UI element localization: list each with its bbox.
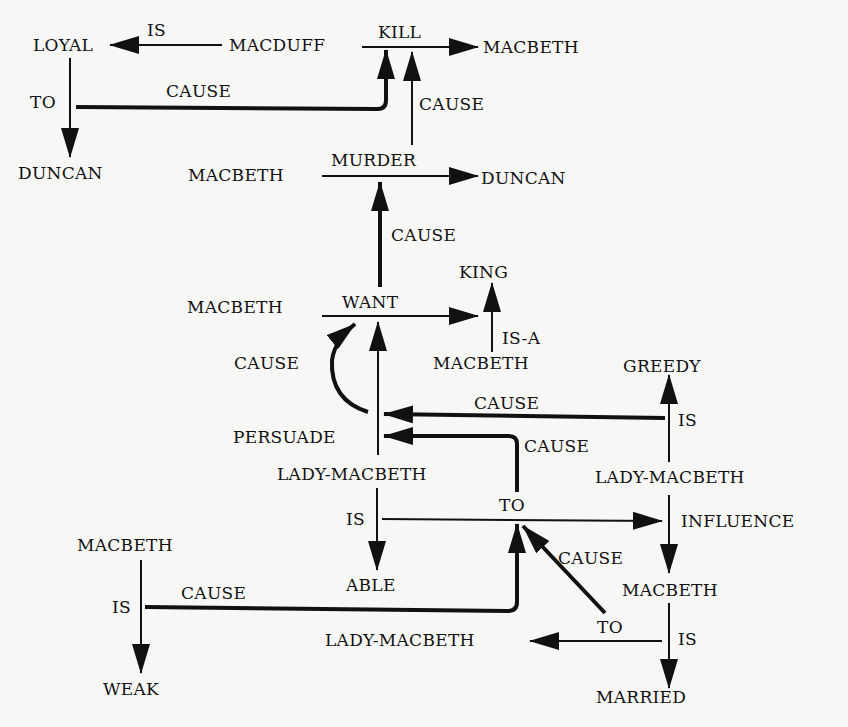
node-macduff: MACDUFF xyxy=(229,37,325,54)
label-kill: KILL xyxy=(378,24,421,41)
node-macbeth-want: MACBETH xyxy=(187,299,283,316)
label-cause-persuade-want: CAUSE xyxy=(234,355,299,372)
label-cause-married-to: CAUSE xyxy=(558,550,623,567)
node-macbeth-murder: MACBETH xyxy=(188,167,284,184)
node-macbeth-isa: MACBETH xyxy=(433,355,529,372)
node-influence: INFLUENCE xyxy=(681,513,794,530)
node-king: KING xyxy=(459,264,508,281)
label-is-able: IS xyxy=(346,511,365,528)
label-to-lady: TO xyxy=(597,619,623,636)
node-lady-macbeth-persuade: LADY-MACBETH xyxy=(277,466,427,483)
edge-cause-greedy-persuade xyxy=(384,414,665,418)
label-cause-greedy-persuade: CAUSE xyxy=(474,395,539,412)
edge-cause-married-to xyxy=(523,526,605,613)
node-able: ABLE xyxy=(346,577,396,594)
label-cause-to-persuade: CAUSE xyxy=(524,438,589,455)
node-lady-macbeth-greedy: LADY-MACBETH xyxy=(595,469,745,486)
label-is-loyal: IS xyxy=(147,22,166,39)
label-is-a: IS-A xyxy=(502,330,540,347)
node-married: MARRIED xyxy=(596,689,686,706)
edge-cause-persuade-want xyxy=(332,324,368,412)
edge-to-influence xyxy=(382,519,662,521)
label-murder: MURDER xyxy=(331,152,416,169)
label-is-married: IS xyxy=(678,631,697,648)
node-loyal: LOYAL xyxy=(33,37,93,54)
node-macbeth-weak: MACBETH xyxy=(77,537,173,554)
node-macbeth-married: MACBETH xyxy=(622,582,718,599)
label-cause-loyal-kill: CAUSE xyxy=(166,83,231,100)
node-duncan-murder: DUNCAN xyxy=(481,170,566,187)
edge-cause-loyal-kill xyxy=(76,50,386,109)
label-to-duncan: TO xyxy=(30,94,56,111)
node-weak: WEAK xyxy=(103,681,159,698)
node-persuade: PERSUADE xyxy=(233,429,336,446)
label-cause-weak-to: CAUSE xyxy=(181,585,246,602)
label-want: WANT xyxy=(342,294,398,311)
label-cause-want-murder: CAUSE xyxy=(391,227,456,244)
label-is-greedy: IS xyxy=(678,412,697,429)
node-macbeth-top: MACBETH xyxy=(483,39,579,56)
node-duncan-left: DUNCAN xyxy=(18,165,103,182)
label-cause-murder-kill: CAUSE xyxy=(419,96,484,113)
label-to-influence: TO xyxy=(499,497,525,514)
node-lady-macbeth-to: LADY-MACBETH xyxy=(325,632,475,649)
label-is-weak: IS xyxy=(112,599,131,616)
node-greedy: GREEDY xyxy=(623,358,701,375)
